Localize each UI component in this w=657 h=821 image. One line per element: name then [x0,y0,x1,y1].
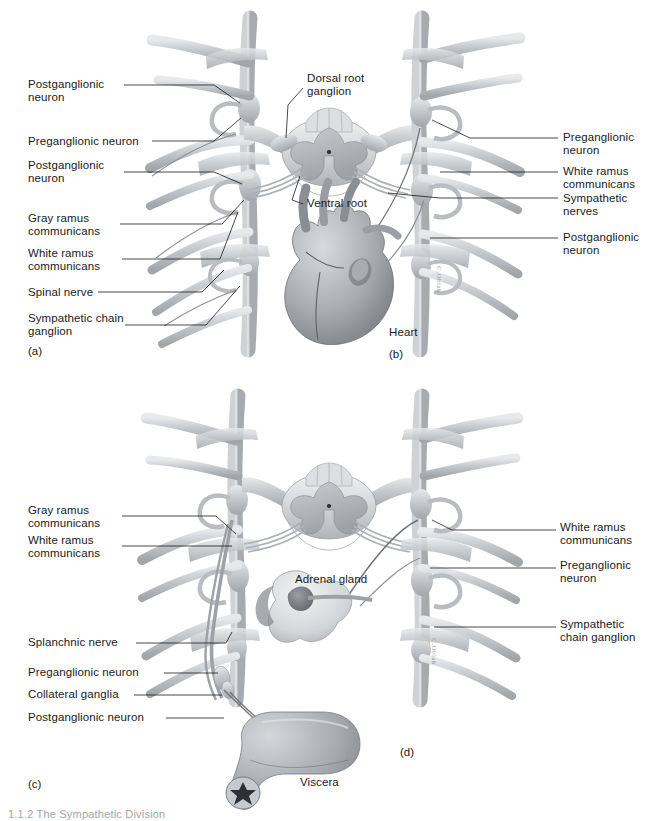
label-collateral-ganglia-c: Collateral ganglia [28,688,119,701]
label-postganglionic-neuron-c: Postganglionic neuron [28,711,144,724]
label-dorsal-root-ganglion-b: Dorsal root ganglion [307,72,364,98]
label-postganglionic-neuron-a1: Postganglionic neuron [28,78,104,104]
label-preganglionic-neuron-b: Preganglionic neuron [563,131,634,157]
label-postganglionic-neuron-a2: Postganglionic neuron [28,159,104,185]
panel-id-a: (a) [28,345,42,357]
label-preganglionic-neuron-d: Preganglionic neuron [560,559,631,585]
label-sympathetic-nerves-b: Sympathetic nerves [563,192,627,218]
viscera-illustration [226,712,360,809]
panel-id-d: (d) [400,746,414,758]
label-viscera-d: Viscera [300,776,339,789]
label-ventral-root-b: Ventral root [307,197,367,210]
label-gray-ramus-communicans-a: Gray ramus communicans [28,212,100,238]
label-heart-b: Heart [389,326,418,339]
label-sympathetic-chain-ganglion-d: Sympathetic chain ganglion [560,618,636,644]
artist-signature-d: C.Oblak [430,638,438,665]
spinal-cord-lower [242,463,418,552]
upper-anatomy-group [150,18,520,350]
lower-anatomy-group [142,396,518,809]
label-postganglionic-neuron-b: Postganglionic neuron [563,231,639,257]
label-adrenal-gland-d: Adrenal gland [295,573,367,586]
label-white-ramus-communicans-c: White ramus communicans [28,534,100,560]
label-white-ramus-communicans-b: White ramus communicans [563,165,635,191]
label-sympathetic-chain-ganglion-a: Sympathetic chain ganglion [28,312,124,338]
panel-id-c: (c) [28,778,41,790]
figure-caption: 1.1.2 The Sympathetic Division [8,808,165,820]
panel-id-b: (b) [389,348,403,360]
artist-signature-b: C.Oblak [435,266,443,293]
label-white-ramus-communicans-a: White ramus communicans [28,247,100,273]
label-gray-ramus-communicans-c: Gray ramus communicans [28,504,100,530]
label-spinal-nerve-a: Spinal nerve [28,286,93,299]
label-splanchnic-nerve-c: Splanchnic nerve [28,636,118,649]
label-preganglionic-neuron-c: Preganglionic neuron [28,666,139,679]
label-preganglionic-neuron-a: Preganglionic neuron [28,135,139,148]
figure-root: Postganglionic neuron Preganglionic neur… [0,0,657,821]
label-white-ramus-communicans-d: White ramus communicans [560,521,632,547]
